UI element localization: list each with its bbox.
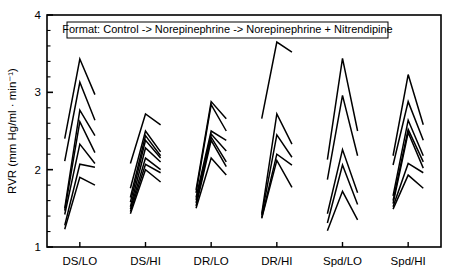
chart-figure: RVR (mm Hg/ml · min⁻¹) 1234 DS/LODS/HIDR… (0, 0, 453, 280)
x-tick-label: DR/HI (261, 255, 292, 267)
x-tick-label: Spd/HI (391, 255, 426, 267)
x-tick-label: DS/LO (63, 255, 98, 267)
y-tick-label: 4 (35, 9, 42, 21)
rvr-line-chart: RVR (mm Hg/ml · min⁻¹) 1234 DS/LODS/HIDR… (0, 0, 453, 280)
y-tick-label: 3 (35, 86, 41, 98)
x-tick-label: Spd/LO (323, 255, 362, 267)
y-tick-label: 1 (35, 241, 41, 253)
chart-background (0, 0, 453, 280)
legend-label: Format: Control -> Norepinephrine -> Nor… (62, 23, 392, 35)
x-tick-label: DS/HI (130, 255, 161, 267)
y-axis-label: RVR (mm Hg/ml · min⁻¹) (6, 68, 18, 194)
y-axis-label-text: RVR (mm Hg/ml · min⁻¹) (6, 68, 18, 194)
y-tick-label: 2 (35, 164, 41, 176)
legend: Format: Control -> Norepinephrine -> Nor… (62, 22, 392, 38)
x-tick-label: DR/LO (194, 255, 229, 267)
